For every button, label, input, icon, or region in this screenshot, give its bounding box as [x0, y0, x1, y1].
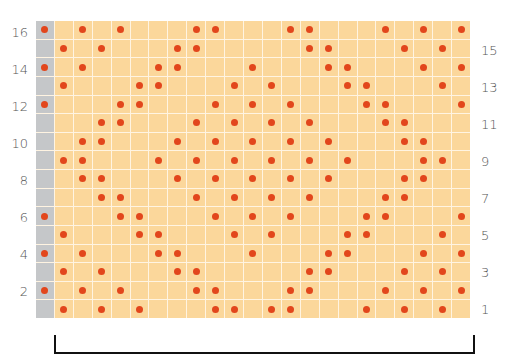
stitch-cell: [74, 300, 92, 318]
stitch-cell: [395, 40, 413, 58]
purl-dot-icon: [306, 157, 313, 164]
stitch-cell: [187, 96, 205, 114]
stitch-cell: [414, 189, 432, 207]
stitch-cell: [93, 96, 111, 114]
stitch-cell: [282, 151, 300, 169]
stitch-cell: [187, 58, 205, 76]
edge-stitch-cell: [36, 189, 54, 207]
stitch-cell: [168, 300, 186, 318]
stitch-cell: [244, 282, 262, 300]
stitch-cell: [244, 77, 262, 95]
stitch-cell: [452, 207, 470, 225]
stitch-cell: [376, 207, 394, 225]
stitch-cell: [320, 151, 338, 169]
stitch-cell: [395, 170, 413, 188]
stitch-cell: [320, 133, 338, 151]
stitch-cell: [358, 96, 376, 114]
purl-dot-icon: [249, 250, 256, 257]
purl-dot-icon: [249, 213, 256, 220]
stitch-cell: [433, 114, 451, 132]
stitch-cell: [206, 77, 224, 95]
stitch-cell: [339, 263, 357, 281]
stitch-cell: [74, 263, 92, 281]
stitch-cell: [55, 245, 73, 263]
stitch-cell: [395, 114, 413, 132]
stitch-cell: [74, 40, 92, 58]
stitch-cell: [74, 226, 92, 244]
stitch-cell: [131, 133, 149, 151]
stitch-cell: [376, 151, 394, 169]
knitting-chart-grid: [36, 21, 470, 318]
stitch-cell: [376, 58, 394, 76]
stitch-cell: [149, 263, 167, 281]
stitch-cell: [112, 300, 130, 318]
purl-dot-icon: [439, 306, 446, 313]
stitch-cell: [93, 21, 111, 39]
purl-dot-icon: [325, 175, 332, 182]
stitch-cell: [206, 263, 224, 281]
stitch-cell: [112, 226, 130, 244]
stitch-cell: [225, 77, 243, 95]
purl-dot-icon: [401, 119, 408, 126]
stitch-cell: [320, 189, 338, 207]
purl-dot-icon: [60, 45, 67, 52]
stitch-cell: [395, 207, 413, 225]
purl-dot-icon: [212, 101, 219, 108]
stitch-cell: [131, 245, 149, 263]
stitch-cell: [433, 21, 451, 39]
stitch-cell: [395, 245, 413, 263]
purl-dot-icon: [439, 82, 446, 89]
stitch-cell: [112, 245, 130, 263]
stitch-cell: [187, 114, 205, 132]
purl-dot-icon: [401, 175, 408, 182]
stitch-cell: [149, 114, 167, 132]
edge-stitch-cell: [36, 77, 54, 95]
purl-dot-icon: [231, 306, 238, 313]
stitch-cell: [452, 40, 470, 58]
stitch-cell: [55, 300, 73, 318]
purl-dot-icon: [249, 138, 256, 145]
stitch-cell: [376, 40, 394, 58]
purl-dot-icon: [117, 119, 124, 126]
stitch-cell: [433, 133, 451, 151]
stitch-cell: [376, 114, 394, 132]
stitch-cell: [339, 133, 357, 151]
stitch-cell: [149, 282, 167, 300]
stitch-cell: [282, 21, 300, 39]
stitch-cell: [358, 282, 376, 300]
stitch-cell: [55, 40, 73, 58]
purl-dot-icon: [79, 138, 86, 145]
stitch-cell: [452, 151, 470, 169]
stitch-cell: [339, 189, 357, 207]
edge-stitch-cell: [36, 96, 54, 114]
stitch-cell: [452, 58, 470, 76]
stitch-cell: [149, 133, 167, 151]
row-label-3: 3: [481, 266, 489, 279]
stitch-cell: [244, 226, 262, 244]
stitch-cell: [74, 207, 92, 225]
stitch-cell: [301, 170, 319, 188]
stitch-cell: [358, 40, 376, 58]
stitch-cell: [74, 282, 92, 300]
stitch-cell: [206, 96, 224, 114]
stitch-cell: [320, 300, 338, 318]
stitch-cell: [206, 170, 224, 188]
edge-stitch-cell: [36, 207, 54, 225]
stitch-cell: [206, 133, 224, 151]
stitch-cell: [187, 170, 205, 188]
stitch-cell: [263, 77, 281, 95]
purl-dot-icon: [268, 194, 275, 201]
stitch-cell: [244, 114, 262, 132]
stitch-cell: [187, 226, 205, 244]
stitch-cell: [320, 96, 338, 114]
stitch-cell: [358, 114, 376, 132]
purl-dot-icon: [41, 64, 48, 71]
purl-dot-icon: [98, 119, 105, 126]
stitch-cell: [320, 40, 338, 58]
stitch-cell: [74, 151, 92, 169]
row-label-9: 9: [481, 155, 489, 168]
stitch-cell: [55, 263, 73, 281]
stitch-cell: [263, 40, 281, 58]
stitch-cell: [376, 133, 394, 151]
stitch-cell: [414, 114, 432, 132]
